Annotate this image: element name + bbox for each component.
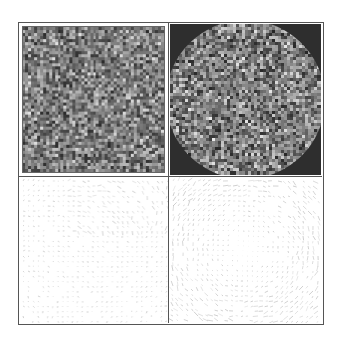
masked-noise-image bbox=[170, 24, 321, 175]
panel-vector-field-right bbox=[169, 177, 322, 323]
vortex-field-image bbox=[169, 177, 322, 323]
vector-field-image bbox=[19, 177, 168, 323]
panel-circular-noise bbox=[169, 23, 322, 177]
panel-vector-field-left bbox=[19, 177, 169, 323]
panel-inner-frame bbox=[22, 26, 165, 173]
panel-square-noise bbox=[19, 23, 169, 177]
noise-image bbox=[23, 27, 164, 172]
figure-grid bbox=[18, 22, 324, 325]
